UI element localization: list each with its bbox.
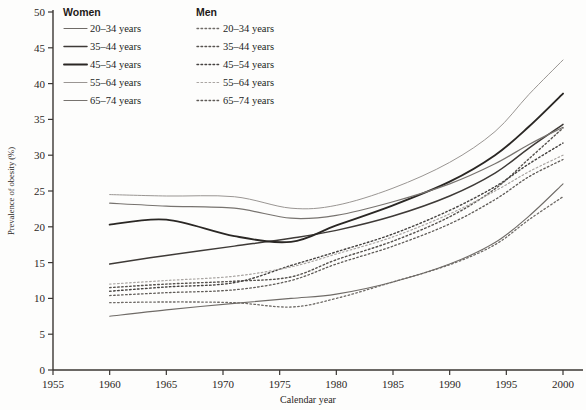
x-tick-label: 1985 xyxy=(382,378,405,390)
series-line-men-35-44-years xyxy=(110,128,563,288)
legend-label-men-4: 65–74 years xyxy=(223,95,274,106)
y-tick-label: 0 xyxy=(40,364,46,376)
x-tick-label: 1955 xyxy=(42,378,65,390)
legend-label-women-0: 20–34 years xyxy=(90,23,141,34)
x-tick-label: 1975 xyxy=(269,378,292,390)
y-tick-label: 40 xyxy=(34,78,46,90)
series-line-men-65-74-years xyxy=(110,160,563,296)
legend-label-women-4: 65–74 years xyxy=(90,95,141,106)
x-tick-label: 1995 xyxy=(495,378,518,390)
legend-label-men-3: 55–64 years xyxy=(223,77,274,88)
legend-label-men-0: 20–34 years xyxy=(223,23,274,34)
y-tick-label: 5 xyxy=(40,328,46,340)
x-axis-title: Calendar year xyxy=(280,394,336,405)
series-line-men-55-64-years xyxy=(110,155,563,284)
y-tick-label: 25 xyxy=(34,185,46,197)
x-tick-label: 1965 xyxy=(155,378,178,390)
y-tick-label: 30 xyxy=(34,149,46,161)
legend-label-women-1: 35–44 years xyxy=(90,41,141,52)
legend-label-men-1: 35–44 years xyxy=(223,41,274,52)
legend-heading-women: Women xyxy=(63,6,101,18)
series-line-women-20-34-years xyxy=(110,184,563,316)
x-tick-label: 2000 xyxy=(552,378,575,390)
axis-titles: Calendar yearPrevalence of obesity (%) xyxy=(6,147,337,405)
y-tick-label: 10 xyxy=(34,292,46,304)
series-line-men-45-54-years xyxy=(110,143,563,291)
y-tick-label: 50 xyxy=(34,6,46,18)
series-line-women-45-54-years xyxy=(110,94,563,243)
y-axis-title: Prevalence of obesity (%) xyxy=(6,147,16,235)
y-tick-label: 45 xyxy=(34,42,46,54)
x-tick-label: 1960 xyxy=(99,378,122,390)
legend-label-women-3: 55–64 years xyxy=(90,77,141,88)
x-tick-label: 1970 xyxy=(212,378,235,390)
y-tick-label: 35 xyxy=(34,113,46,125)
x-tick-label: 1980 xyxy=(325,378,348,390)
legend-label-men-2: 45–54 years xyxy=(223,59,274,70)
legend-heading-men: Men xyxy=(196,6,217,18)
obesity-prevalence-chart: 0510152025303540455019551960196519701975… xyxy=(0,0,586,410)
line-chart-canvas: 0510152025303540455019551960196519701975… xyxy=(0,0,586,410)
y-tick-label: 20 xyxy=(34,221,46,233)
chart-legend: Women20–34 years35–44 years45–54 years55… xyxy=(63,6,274,106)
data-series-layer xyxy=(110,60,563,316)
y-tick-label: 15 xyxy=(34,257,46,269)
legend-label-women-2: 45–54 years xyxy=(90,59,141,70)
x-tick-label: 1990 xyxy=(439,378,462,390)
